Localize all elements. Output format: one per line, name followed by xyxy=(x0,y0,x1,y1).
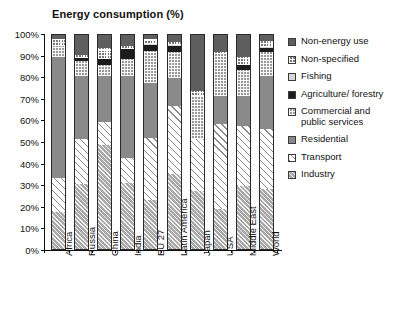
segment-residential[interactable] xyxy=(214,96,227,124)
x-axis-label-japan: Japan xyxy=(201,230,212,256)
segment-agriculture[interactable] xyxy=(168,46,181,52)
legend-item[interactable]: Commercial and public services xyxy=(288,106,392,127)
segment-nonenergy[interactable] xyxy=(214,34,227,52)
segment-commercial[interactable] xyxy=(98,65,111,76)
bar-usa[interactable] xyxy=(213,34,228,250)
segment-nonenergy[interactable] xyxy=(121,34,134,46)
segment-nonspecified[interactable] xyxy=(237,57,250,66)
legend-label: Transport xyxy=(301,152,341,163)
legend-item[interactable]: Non-specified xyxy=(288,54,392,65)
legend-item[interactable]: Industry xyxy=(288,169,392,180)
segment-fishing[interactable] xyxy=(168,45,181,46)
segment-commercial[interactable] xyxy=(121,59,134,76)
segment-commercial[interactable] xyxy=(191,96,204,139)
segment-agriculture[interactable] xyxy=(98,59,111,65)
x-axis-label-usa: USA xyxy=(224,236,235,256)
segment-agriculture[interactable] xyxy=(121,49,134,59)
legend-label: Non-energy use xyxy=(301,36,369,47)
segment-transport[interactable] xyxy=(121,158,134,183)
segment-commercial[interactable] xyxy=(260,52,273,76)
segment-agriculture[interactable] xyxy=(144,45,157,51)
segment-nonspecified[interactable] xyxy=(75,55,88,58)
segment-commercial[interactable] xyxy=(75,61,88,76)
segment-transport[interactable] xyxy=(98,122,111,146)
legend-swatch-agriculture xyxy=(288,91,296,99)
segment-commercial[interactable] xyxy=(214,54,227,96)
segment-transport[interactable] xyxy=(144,138,157,201)
bar-world[interactable] xyxy=(259,34,274,250)
bar-japan[interactable] xyxy=(190,34,205,250)
segment-nonenergy[interactable] xyxy=(98,34,111,48)
segment-residential[interactable] xyxy=(121,76,134,158)
legend-item[interactable]: Fishing xyxy=(288,71,392,82)
segment-transport[interactable] xyxy=(168,106,181,174)
segment-transport[interactable] xyxy=(75,139,88,184)
bar-china[interactable] xyxy=(97,34,112,250)
segment-commercial[interactable] xyxy=(52,46,65,57)
segment-commercial[interactable] xyxy=(168,52,181,78)
bar-russia[interactable] xyxy=(74,34,89,250)
legend-swatch-commercial xyxy=(288,108,296,116)
legend-item[interactable]: Residential xyxy=(288,134,392,145)
segment-transport[interactable] xyxy=(191,139,204,191)
x-axis-label-latin-america: Latin America xyxy=(178,198,189,256)
segment-nonspecified[interactable] xyxy=(168,42,181,45)
segment-residential[interactable] xyxy=(237,96,250,126)
y-tick-mark xyxy=(41,77,44,78)
segment-nonspecified[interactable] xyxy=(121,46,134,49)
segment-transport[interactable] xyxy=(214,124,227,209)
segment-nonspecified[interactable] xyxy=(144,40,157,44)
segment-residential[interactable] xyxy=(98,76,111,121)
legend-label: Residential xyxy=(301,134,348,145)
segment-transport[interactable] xyxy=(52,178,65,213)
segment-residential[interactable] xyxy=(75,76,88,139)
legend-label: Commercial and public services xyxy=(301,106,392,127)
segment-residential[interactable] xyxy=(52,57,65,178)
segment-nonspecified[interactable] xyxy=(98,48,111,59)
segment-agriculture[interactable] xyxy=(260,48,273,52)
bar-africa[interactable] xyxy=(51,34,66,250)
chart-title: Energy consumption (%) xyxy=(52,8,184,20)
segment-fishing[interactable] xyxy=(260,47,273,48)
segment-residential[interactable] xyxy=(260,76,273,129)
y-tick-mark xyxy=(41,185,44,186)
y-tick-label: 90% xyxy=(20,50,39,61)
segment-nonenergy[interactable] xyxy=(144,34,157,39)
segment-nonspecified[interactable] xyxy=(191,91,204,95)
x-axis-label-india: India xyxy=(132,235,143,256)
x-axis-label-middle-east: Middle East xyxy=(247,206,258,256)
segment-agriculture[interactable] xyxy=(75,58,88,61)
segment-nonenergy[interactable] xyxy=(52,34,65,39)
segment-nonspecified[interactable] xyxy=(52,40,65,46)
segment-nonenergy[interactable] xyxy=(260,34,273,41)
y-tick-label: 60% xyxy=(20,115,39,126)
segment-fishing[interactable] xyxy=(144,44,157,45)
segment-commercial[interactable] xyxy=(144,51,157,82)
segment-agriculture[interactable] xyxy=(237,65,250,69)
y-tick-label: 30% xyxy=(20,180,39,191)
segment-nonspecified[interactable] xyxy=(214,52,227,53)
y-tick-label: 70% xyxy=(20,93,39,104)
segment-nonspecified[interactable] xyxy=(260,41,273,47)
segment-nonenergy[interactable] xyxy=(237,34,250,57)
x-axis-label-russia: Russia xyxy=(86,227,97,256)
x-axis-label-china: China xyxy=(109,231,120,256)
segment-transport[interactable] xyxy=(237,126,250,186)
legend-item[interactable]: Transport xyxy=(288,152,392,163)
legend-item[interactable]: Non-energy use xyxy=(288,36,392,47)
legend-swatch-nonenergy xyxy=(288,38,296,46)
y-tick-mark xyxy=(41,164,44,165)
segment-nonenergy[interactable] xyxy=(191,34,204,91)
segment-transport[interactable] xyxy=(260,129,273,188)
segment-nonenergy[interactable] xyxy=(168,34,181,42)
y-tick-label: 10% xyxy=(20,223,39,234)
segment-nonenergy[interactable] xyxy=(75,34,88,55)
bar-india[interactable] xyxy=(120,34,135,250)
y-tick-mark xyxy=(41,56,44,57)
segment-residential[interactable] xyxy=(144,83,157,138)
segment-commercial[interactable] xyxy=(237,70,250,96)
bar-eu-27[interactable] xyxy=(143,34,158,250)
segment-residential[interactable] xyxy=(168,78,181,106)
y-tick-label: 80% xyxy=(20,72,39,83)
legend-item[interactable]: Agriculture/ forestry xyxy=(288,89,392,100)
